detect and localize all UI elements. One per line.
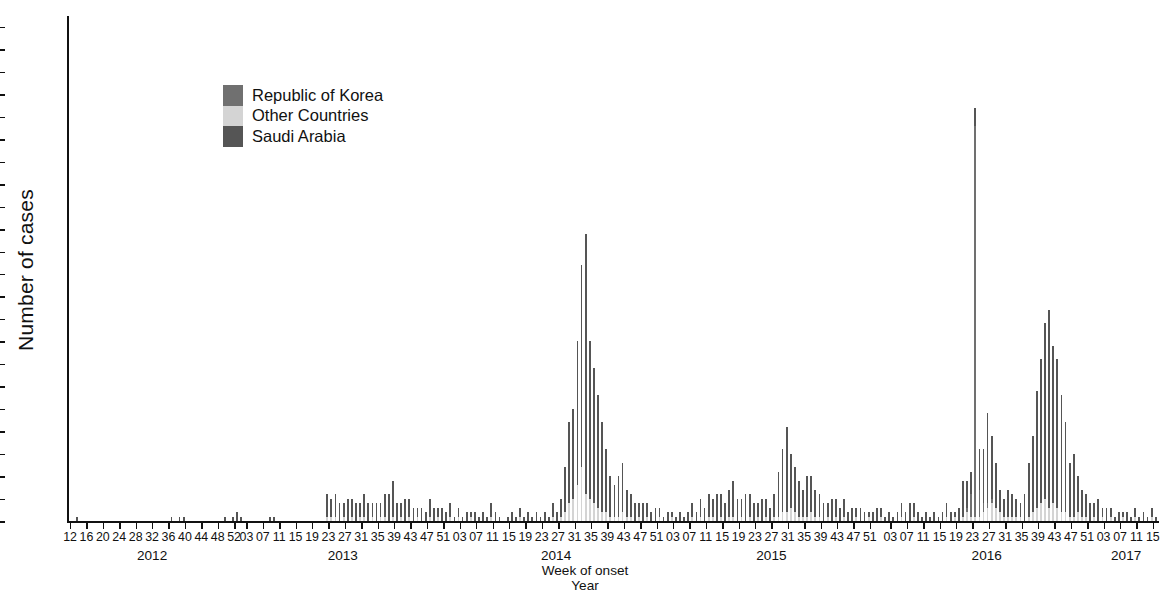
bar	[958, 508, 960, 521]
bar-segment-saudi	[486, 517, 488, 521]
x-axis-tick	[345, 522, 346, 529]
bar-segment-other	[1085, 517, 1087, 521]
x-axis-week-label: 07	[469, 530, 483, 544]
x-axis-week-label: 12	[63, 530, 77, 544]
bar	[724, 503, 726, 521]
bar-segment-saudi	[929, 517, 931, 521]
bar-segment-saudi	[667, 512, 669, 521]
bar-segment-saudi	[720, 494, 722, 516]
bar	[560, 499, 562, 521]
bar-segment-saudi	[343, 503, 345, 516]
x-axis-tick	[722, 522, 723, 529]
x-axis-week-label: 43	[1048, 530, 1062, 544]
bar	[974, 108, 976, 521]
bar	[786, 427, 788, 521]
bar	[913, 503, 915, 521]
bar	[413, 508, 415, 521]
x-axis-tick	[542, 522, 543, 529]
bar	[679, 512, 681, 521]
bar-segment-other	[335, 517, 337, 521]
bar-segment-saudi	[1085, 494, 1087, 516]
bar	[1126, 512, 1128, 521]
bar-segment-saudi	[495, 512, 497, 521]
bar-segment-saudi	[1056, 359, 1058, 507]
x-axis-week-label: 03	[666, 530, 680, 544]
bar-segment-saudi	[236, 512, 238, 521]
bar-segment-saudi	[987, 413, 989, 503]
x-axis-week-label: 11	[273, 530, 286, 544]
bar-segment-saudi	[564, 467, 566, 512]
bar	[404, 499, 406, 521]
bar-segment-saudi	[1073, 454, 1075, 517]
bar-segment-other	[794, 512, 796, 521]
bar-segment-saudi	[572, 409, 574, 499]
bar-segment-other	[1015, 517, 1017, 521]
bar-segment-other	[581, 467, 583, 521]
bar	[855, 508, 857, 521]
bar-segment-saudi	[901, 503, 903, 516]
bar-segment-saudi	[429, 499, 431, 517]
bar-segment-saudi	[1138, 517, 1140, 521]
x-axis-tick	[525, 522, 526, 529]
x-axis-tick	[70, 522, 71, 529]
x-axis-week-label: 35	[797, 530, 811, 544]
bar-segment-saudi	[810, 476, 812, 512]
bar	[626, 490, 628, 521]
x-axis-week-label: 03	[240, 530, 254, 544]
bar-segment-other	[806, 517, 808, 521]
bar-segment-saudi	[1044, 323, 1046, 498]
bar-segment-saudi	[548, 517, 550, 521]
bar	[778, 472, 780, 521]
bar	[704, 508, 706, 521]
bar	[236, 512, 238, 521]
bar-segment-saudi	[757, 503, 759, 516]
bar-segment-saudi	[618, 476, 620, 516]
bar-segment-saudi	[392, 481, 394, 517]
bar-segment-saudi	[536, 512, 538, 521]
bar-segment-saudi	[655, 508, 657, 521]
bar	[376, 503, 378, 521]
bar-segment-saudi	[1028, 463, 1030, 517]
x-axis-tick	[821, 522, 822, 529]
bar-segment-saudi	[724, 503, 726, 521]
bar	[568, 422, 570, 521]
bar	[437, 508, 439, 521]
bar	[183, 517, 185, 521]
bar-segment-other	[691, 517, 693, 521]
bar	[449, 503, 451, 521]
y-axis-tick-mark	[0, 184, 5, 186]
bar	[773, 494, 775, 521]
x-axis-tick	[1087, 522, 1088, 529]
bar-segment-saudi	[1052, 346, 1054, 503]
bar-segment-saudi	[507, 517, 509, 521]
bar-segment-other	[519, 517, 521, 521]
bar-segment-saudi	[979, 449, 981, 489]
y-axis-tick-mark	[0, 117, 5, 119]
bar	[851, 508, 853, 521]
bar-segment-other	[458, 517, 460, 521]
bar	[433, 508, 435, 521]
bar	[622, 463, 624, 521]
bar	[556, 512, 558, 521]
x-axis-tick	[1153, 522, 1154, 529]
x-axis-week-label: 31	[354, 530, 368, 544]
x-axis-year-label: 2015	[756, 548, 786, 564]
x-axis-tick	[427, 522, 428, 529]
bar	[761, 499, 763, 521]
legend: Republic of KoreaOther CountriesSaudi Ar…	[223, 85, 383, 147]
legend-label: Other Countries	[252, 106, 368, 125]
x-axis-week-label: 39	[814, 530, 828, 544]
bar	[823, 503, 825, 521]
bar-segment-saudi	[593, 368, 595, 503]
bar	[1007, 490, 1009, 521]
bar-segment-saudi	[1102, 508, 1104, 517]
x-axis-week-label: 47	[847, 530, 861, 544]
bar-segment-saudi	[966, 481, 968, 508]
bar-segment-other	[605, 512, 607, 521]
y-axis-tick-mark	[0, 476, 5, 478]
bar-segment-saudi	[388, 494, 390, 521]
bar	[708, 494, 710, 521]
bar-segment-other	[630, 517, 632, 521]
bar-segment-korea	[974, 126, 976, 517]
bar-segment-saudi	[921, 517, 923, 521]
